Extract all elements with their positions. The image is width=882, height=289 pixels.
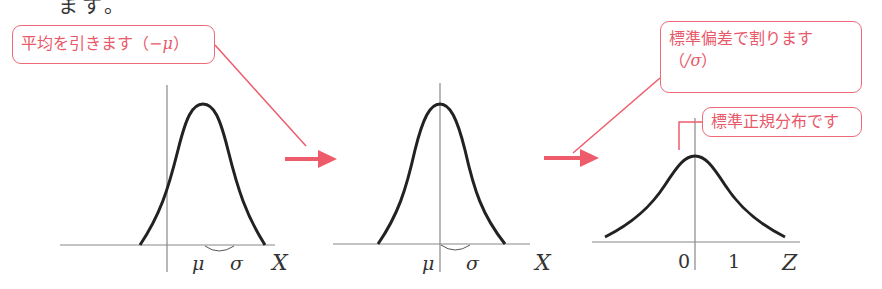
normal-curve <box>140 104 265 245</box>
callout-divide-sd: 標準偏差で割ります （/σ） <box>660 21 862 93</box>
callout-text: 平均を引きます（ <box>21 34 149 53</box>
math-div-sigma: /σ <box>685 51 701 70</box>
callout-standard-normal: 標準正規分布です <box>702 107 862 137</box>
label-zero: 0 <box>678 250 690 272</box>
label-sigma: σ <box>230 252 243 274</box>
math-minus-mu: −μ <box>149 34 173 53</box>
callout-subtract-mean: 平均を引きます（−μ） <box>12 25 215 64</box>
label-x-axis: X <box>272 250 288 275</box>
panel-centered <box>333 83 530 272</box>
label-mu: μ <box>192 252 204 274</box>
label-one: 1 <box>728 250 740 272</box>
callout-text: 標準偏差で割ります <box>669 28 853 50</box>
label-z-axis: Z <box>782 250 797 275</box>
paren: ） <box>173 34 189 53</box>
paren: （ <box>669 51 685 70</box>
sigma-arc <box>205 246 234 251</box>
panel-standardized <box>592 118 800 270</box>
label-x-axis: X <box>535 250 551 275</box>
label-sigma: σ <box>466 252 479 274</box>
paren: ） <box>701 51 717 70</box>
annotations <box>215 45 702 168</box>
label-mu: μ <box>422 252 434 274</box>
panel-original <box>60 85 275 272</box>
